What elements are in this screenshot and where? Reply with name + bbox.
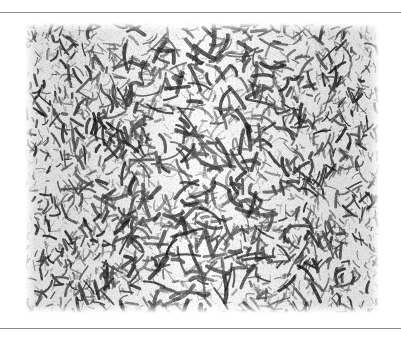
top-rule: [0, 12, 401, 13]
figure-region: [0, 14, 401, 327]
network-canvas: [25, 23, 379, 313]
bottom-rule: [0, 328, 401, 329]
network-render-image: [25, 23, 379, 313]
figure-page: [0, 0, 401, 338]
